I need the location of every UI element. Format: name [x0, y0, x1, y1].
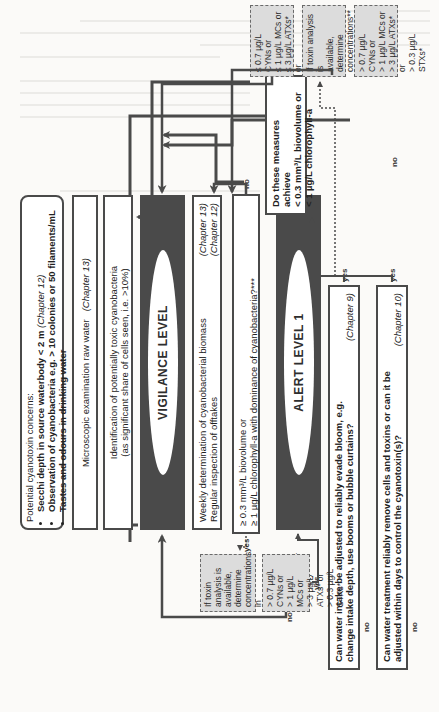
flowchart-canvas: Potential cyanotoxin concerns: Secchi de…	[0, 0, 439, 712]
flow-arrows	[0, 0, 439, 712]
